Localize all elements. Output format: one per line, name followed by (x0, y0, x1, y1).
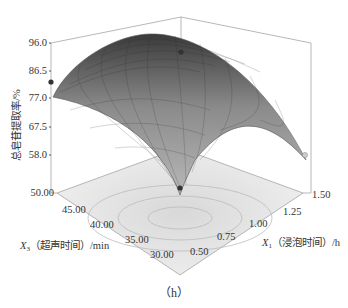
x1-tick: 1.50 (312, 189, 330, 200)
surface-plot: 96.0 86.5 77.0 67.5 58.0 50.00 总皂苷提取率/% … (0, 0, 348, 308)
z-tick: 67.5 (29, 121, 47, 132)
x3-tick: 45.00 (62, 204, 86, 215)
z-axis: 96.0 86.5 77.0 67.5 58.0 50.00 总皂苷提取率/% (10, 37, 54, 198)
x1-axis-label: X1（浸泡时间）/h (261, 236, 341, 250)
z-tick: 50.00 (30, 187, 54, 198)
z-tick: 96.0 (29, 37, 47, 48)
response-surface (53, 34, 306, 195)
data-point-marker (48, 79, 53, 84)
x1-tick: 1.25 (283, 206, 301, 217)
z-tick: 58.0 (29, 149, 47, 160)
x3-axis-label: X3（超声时间）/min (19, 239, 110, 253)
data-point-marker (178, 49, 183, 54)
data-point-marker (177, 185, 182, 190)
data-point-marker (302, 152, 307, 157)
z-axis-label: 总皂苷提取率/% (10, 89, 22, 161)
figure-caption: （h） (0, 283, 348, 301)
x1-tick: 1.00 (249, 218, 267, 229)
x3-tick: 40.00 (90, 219, 114, 230)
z-tick: 86.5 (29, 65, 47, 76)
x3-tick: 35.00 (125, 234, 149, 245)
x1-tick: 0.75 (217, 231, 235, 242)
x3-tick: 30.00 (150, 249, 174, 260)
z-tick: 77.0 (29, 92, 47, 103)
x1-tick: 0.50 (190, 246, 208, 257)
